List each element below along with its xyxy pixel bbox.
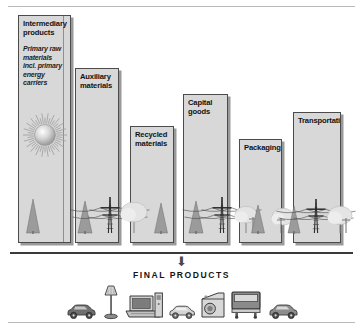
car-icon <box>64 303 98 320</box>
top-divider <box>8 6 355 7</box>
material-flow-diagram: Intermediary products Primary raw materi… <box>0 0 363 333</box>
sun-icon <box>22 112 68 162</box>
car-icon <box>167 304 197 320</box>
bar-chart-plot: Intermediary products Primary raw materi… <box>0 10 363 250</box>
bar-label: Recycled materials <box>135 130 170 149</box>
bar-subtitle: Primary raw materials incl. primary ener… <box>23 45 67 88</box>
bar-label: Intermediary products <box>23 19 67 38</box>
bar-label: Transportation <box>298 116 337 125</box>
bar-recycled-materials: Recycled materials <box>130 126 174 243</box>
bar-label: Auxiliary materials <box>80 72 115 91</box>
bar-packaging: Packaging <box>239 139 282 243</box>
bar-transportation: Transportation <box>293 112 341 243</box>
floor-lamp-icon <box>101 284 121 320</box>
bar-capital-goods: Capital goods <box>183 94 228 243</box>
bar-label: Capital goods <box>188 98 224 117</box>
car-icon <box>266 303 300 320</box>
washing-machine-icon <box>200 291 226 320</box>
final-products-row <box>0 282 363 320</box>
down-arrow-icon: ⬇ <box>0 255 363 268</box>
bar-auxiliary-materials: Auxiliary materials <box>75 68 119 243</box>
bar-label: Packaging <box>244 143 278 152</box>
bar-intermediary-products: Intermediary products Primary raw materi… <box>18 15 71 243</box>
truck-icon <box>229 290 263 320</box>
bottom-divider <box>8 322 355 323</box>
computer-icon <box>124 290 164 320</box>
final-products-caption: FINAL PRODUCTS <box>0 270 363 280</box>
